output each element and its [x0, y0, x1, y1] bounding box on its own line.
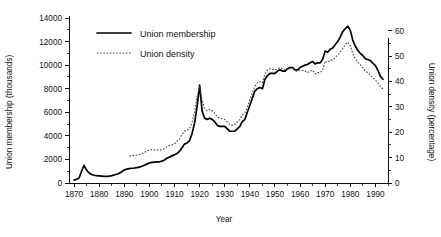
y2-axis-title: Union density (percentage): [427, 63, 436, 162]
y2-tick-label: 30: [395, 103, 405, 112]
minor-tick-marks: [67, 30, 391, 186]
x-tick-label: 1940: [241, 190, 260, 199]
x-axis-title: Year: [216, 215, 233, 224]
series-line-union-density: [129, 42, 383, 156]
y-tick-label: 4000: [44, 132, 63, 141]
x-tick-label: 1990: [366, 190, 385, 199]
y2-tick-label: 0: [395, 179, 400, 188]
y-tick-label: 2000: [44, 155, 63, 164]
y2-tick-label: 60: [395, 27, 405, 36]
y2-tick-label: 40: [395, 77, 405, 86]
legend-label: Union density: [140, 49, 195, 59]
x-tick-label: 1900: [140, 190, 159, 199]
x-tick-label: 1970: [316, 190, 335, 199]
major-tick-marks: [65, 18, 392, 187]
x-tick-label: 1910: [165, 190, 184, 199]
series-line-union-membership: [74, 26, 383, 180]
x-tick-label: 1870: [65, 190, 84, 199]
y2-tick-labels: 0102030405060: [395, 27, 405, 188]
y-tick-label: 12000: [39, 38, 62, 47]
x-tick-label: 1920: [191, 190, 210, 199]
y-tick-label: 10000: [39, 61, 62, 70]
x-tick-label: 1960: [291, 190, 310, 199]
chart-figure: 1870188018901900191019201930194019501960…: [0, 0, 441, 237]
x-tick-label: 1880: [90, 190, 109, 199]
y2-tick-label: 20: [395, 128, 405, 137]
legend-label: Union membership: [140, 29, 216, 39]
y-tick-label: 8000: [44, 85, 63, 94]
x-tick-label: 1890: [115, 190, 134, 199]
chart-canvas: 1870188018901900191019201930194019501960…: [0, 0, 441, 237]
y-tick-labels: 02000400060008000100001200014000: [39, 14, 62, 188]
y-tick-label: 0: [57, 179, 62, 188]
chart-legend: Union membershipUnion density: [97, 29, 216, 59]
x-tick-label: 1980: [341, 190, 360, 199]
x-tick-labels: 1870188018901900191019201930194019501960…: [65, 190, 385, 199]
x-tick-label: 1930: [216, 190, 235, 199]
axis-lines: [69, 16, 388, 183]
x-tick-label: 1950: [266, 190, 285, 199]
y-tick-label: 14000: [39, 14, 62, 23]
y2-tick-label: 10: [395, 154, 405, 163]
y-axis-title: Union membership (thousands): [5, 55, 14, 169]
data-series-group: [74, 26, 383, 180]
y-tick-label: 6000: [44, 108, 63, 117]
y2-tick-label: 50: [395, 52, 405, 61]
